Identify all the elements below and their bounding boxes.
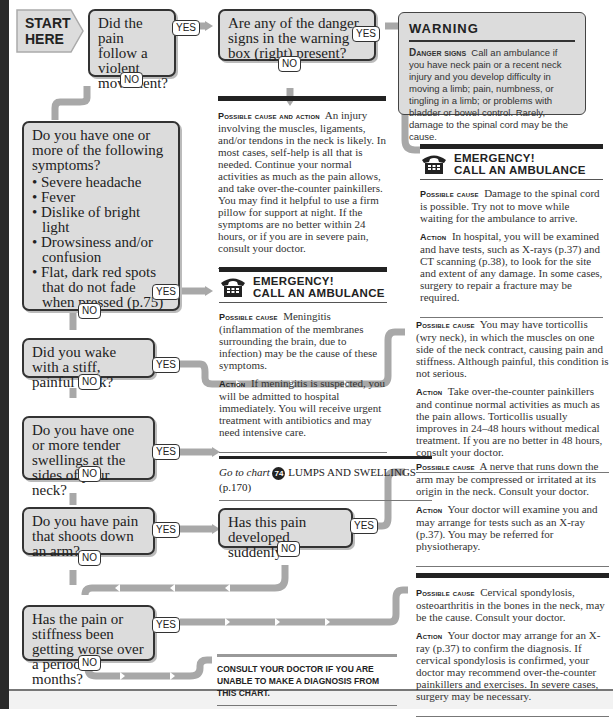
telephone-icon — [420, 153, 448, 175]
result-nerve-compression: Possible cause A nerve that runs down th… — [416, 460, 609, 567]
no-label: NO — [78, 550, 101, 566]
chart-number-badge: 74 — [272, 467, 285, 480]
action-lead: Action — [219, 379, 245, 389]
no-label: NO — [78, 466, 101, 482]
emergency-line2: CALL AN AMBULANCE — [253, 287, 385, 299]
result-top-bar — [218, 96, 386, 101]
no-label: NO — [278, 56, 301, 72]
no-label: NO — [78, 374, 101, 390]
action-lead: Action — [420, 232, 446, 242]
yes-label: YES — [152, 522, 180, 538]
question-text: Are any of the danger signs in the warni… — [228, 15, 359, 61]
start-label-line1: START — [25, 15, 71, 31]
result-top-bar — [420, 144, 603, 149]
question-violent-movement: Did the pain follow a violent movement? — [88, 9, 176, 77]
result-top-bar — [416, 573, 609, 578]
result-top-bar — [219, 267, 387, 272]
result-lead: Possible cause and action — [218, 111, 320, 121]
cause-lead: Possible cause — [416, 320, 475, 330]
yes-label: YES — [350, 518, 378, 534]
cause-lead: Possible cause — [420, 189, 479, 199]
symptom-item: Flat, dark red spots that do not fade wh… — [32, 265, 170, 310]
result-meningitis-emergency: EMERGENCY!CALL AN AMBULANCE Possible cau… — [219, 267, 387, 453]
result-spinal-emergency: EMERGENCY!CALL AN AMBULANCE Possible cau… — [420, 144, 603, 318]
yes-label: YES — [152, 284, 180, 300]
goto-chart-link[interactable]: Go to chart 74 LUMPS AND SWELLINGS (p.17… — [219, 456, 432, 501]
question-worsening-months: Has the pain or stiffness been getting w… — [22, 605, 155, 661]
yes-label: YES — [352, 26, 380, 42]
yes-label: YES — [152, 617, 180, 633]
result-muscle-injury: Possible cause and action An injury invo… — [218, 96, 386, 269]
warning-lead: Danger signs — [409, 47, 466, 58]
consult-doctor-note: CONSULT YOUR DOCTOR IF YOU ARE UNABLE TO… — [217, 654, 397, 706]
cause-lead: Possible cause — [416, 462, 475, 472]
action-lead: Action — [416, 387, 442, 397]
question-stiff-neck: Did you wake with a stiff, painful neck? — [22, 338, 155, 378]
yes-label: YES — [172, 20, 200, 36]
no-label: NO — [78, 655, 101, 671]
question-meningitis-symptoms: Do you have one or more of the following… — [22, 121, 180, 311]
question-text: Did you wake with a stiff, painful neck? — [32, 344, 116, 390]
warning-body: Call an ambulance if you have neck pain … — [409, 47, 568, 142]
action-lead: Action — [416, 631, 442, 641]
cause-lead: Possible cause — [219, 312, 278, 322]
emergency-line2: CALL AN AMBULANCE — [454, 164, 586, 176]
result-cervical-spondylosis: Possible cause Cervical spondylosis, ost… — [416, 573, 609, 717]
warning-box: WARNING Danger signs Call an ambulance i… — [398, 12, 586, 115]
action-text: Take over-the-counter painkillers and co… — [416, 385, 602, 458]
action-text: Your doctor will examine you and may arr… — [416, 503, 598, 552]
symptom-item: Dislike of bright light — [32, 205, 170, 235]
action-lead: Action — [416, 505, 442, 515]
action-text: Your doctor may arrange for an X-ray (p.… — [416, 629, 600, 702]
question-arm-pain: Do you have pain that shoots down an arm… — [22, 507, 155, 555]
goto-chart-name: LUMPS AND SWELLINGS — [288, 466, 416, 478]
emergency-line1: EMERGENCY! — [454, 152, 586, 164]
goto-prefix: Go to chart — [219, 466, 270, 478]
yes-label: YES — [152, 444, 180, 460]
emergency-header: EMERGENCY!CALL AN AMBULANCE — [420, 152, 603, 180]
symptom-list: Severe headache Fever Dislike of bright … — [32, 175, 170, 310]
action-text: In hospital, you will be examined and ha… — [420, 230, 602, 303]
start-marker: START HERE — [15, 8, 85, 54]
no-label: NO — [78, 303, 101, 319]
symptom-item: Drowsiness and/or confusion — [32, 235, 170, 265]
result-text: An injury involving the muscles, ligamen… — [218, 109, 386, 254]
emergency-line1: EMERGENCY! — [253, 275, 385, 287]
yes-label: YES — [152, 357, 180, 373]
result-torticollis: Possible cause You may have torticollis … — [416, 318, 609, 473]
goto-page: (p.170) — [219, 481, 251, 493]
telephone-icon — [219, 276, 247, 298]
question-text: Do you have one or more of the following… — [32, 127, 163, 173]
symptom-item: Fever — [32, 190, 170, 205]
symptom-item: Severe headache — [32, 175, 170, 190]
no-label: NO — [277, 541, 300, 557]
no-label: NO — [120, 72, 143, 88]
cause-lead: Possible cause — [416, 588, 475, 598]
emergency-header: EMERGENCY!CALL AN AMBULANCE — [219, 275, 387, 303]
start-label-line2: HERE — [25, 31, 71, 47]
warning-title: WARNING — [409, 21, 575, 42]
